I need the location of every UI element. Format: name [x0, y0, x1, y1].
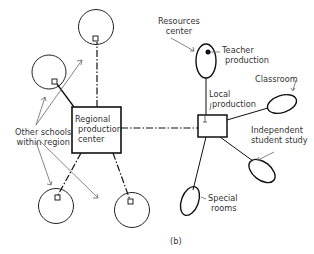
special-rooms-oval [177, 184, 203, 218]
school-top-unit [93, 36, 98, 41]
resources-center-label: Resources center [158, 16, 200, 36]
regional-center-label: Regional production center [75, 114, 122, 144]
school-upper-left-unit [52, 79, 57, 84]
local-production-label: Local production [209, 89, 256, 109]
school-bottom-left-unit [55, 195, 60, 200]
special-rooms-label: Special rooms [208, 193, 238, 213]
school-bottom-left-circle [39, 189, 74, 224]
figure-caption: (b) [170, 236, 182, 246]
link-local-independent [220, 137, 253, 161]
link-local-special [193, 137, 206, 190]
classroom-oval [265, 91, 299, 116]
school-bottom-mid-circle [115, 193, 150, 228]
school-top-circle [79, 10, 114, 45]
link-local-classroom [227, 108, 268, 120]
school-upper-left-circle [32, 55, 66, 89]
other-schools-label: Other schools within region [15, 127, 71, 147]
teacher-production-label: Teacher production [222, 45, 269, 65]
teacher-production-dot [206, 50, 211, 55]
local-production-box [198, 115, 227, 137]
independent-study-oval [245, 155, 280, 188]
link-regional-upper-left-school [57, 84, 74, 107]
independent-study-label: Independent student study [251, 125, 308, 145]
school-bottom-mid-unit [128, 199, 133, 204]
resources-center-oval [196, 44, 216, 78]
link-regional-bottom-left-school [58, 153, 81, 195]
classroom-label: Classroom [255, 74, 298, 84]
